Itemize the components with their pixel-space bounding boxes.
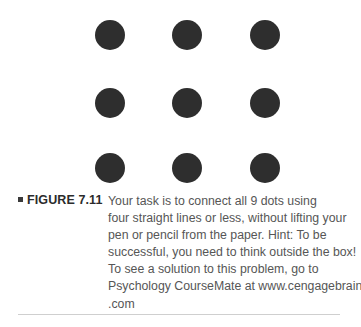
caption-line: four straight lines or less, without lif…	[108, 210, 352, 227]
grid-dot	[172, 153, 202, 183]
caption-line: Your task is to connect all 9 dots using	[108, 193, 352, 210]
figure-label-text: FIGURE 7.11	[27, 193, 102, 207]
nine-dot-grid	[95, 20, 280, 182]
grid-dot	[172, 20, 202, 50]
dot-row	[95, 88, 280, 118]
caption-line: Psychology CourseMate at www.cengagebrai…	[108, 278, 352, 295]
caption-line: .com	[108, 296, 352, 313]
square-bullet-icon	[18, 197, 23, 202]
caption-line: pen or pencil from the paper. Hint: To b…	[108, 227, 352, 244]
grid-dot	[95, 88, 125, 118]
grid-dot	[250, 88, 280, 118]
caption-line: To see a solution to this problem, go to	[108, 261, 352, 278]
grid-dot	[250, 20, 280, 50]
dot-row	[95, 153, 280, 183]
footer-divider	[18, 314, 340, 315]
grid-dot	[172, 88, 202, 118]
grid-dot	[95, 20, 125, 50]
figure-label: FIGURE 7.11	[18, 193, 106, 207]
grid-dot	[95, 153, 125, 183]
figure-caption-body: Your task is to connect all 9 dots using…	[108, 193, 352, 313]
dot-row	[95, 20, 280, 50]
caption-line: successful, you need to think outside th…	[108, 244, 352, 261]
grid-dot	[250, 153, 280, 183]
figure-container: FIGURE 7.11 Your task is to connect all …	[0, 0, 361, 327]
